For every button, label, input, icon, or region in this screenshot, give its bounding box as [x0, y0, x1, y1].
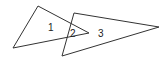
region-label-1: 1 [48, 22, 54, 33]
triangles-diagram: 1 2 3 [0, 0, 167, 72]
region-label-2: 2 [70, 28, 76, 39]
triangle-right [62, 13, 159, 56]
diagram-canvas: 1 2 3 [0, 0, 167, 72]
region-label-3: 3 [98, 28, 104, 39]
